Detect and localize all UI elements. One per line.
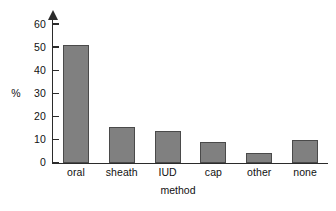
bar — [292, 140, 318, 163]
x-axis-title: method — [0, 185, 336, 196]
bar — [63, 45, 89, 163]
x-axis-title-text: method — [160, 184, 195, 196]
y-axis-tick-label: 60 — [24, 19, 46, 30]
y-axis-tick-label: 50 — [24, 42, 46, 53]
bar — [200, 142, 226, 163]
y-axis-tick-label: 20 — [24, 111, 46, 122]
bar — [109, 127, 135, 163]
x-axis-tick-label: none — [265, 167, 336, 178]
y-axis-tick-label: 40 — [24, 65, 46, 76]
y-axis-title: % — [9, 88, 23, 99]
x-axis-tick-labels: oralsheathIUDcapothernone — [53, 167, 328, 181]
bar — [155, 131, 181, 163]
y-axis-tick-label: 30 — [24, 88, 46, 99]
plot-area — [53, 0, 328, 163]
y-axis-tick-label: 10 — [24, 134, 46, 145]
bar-chart: 0102030405060 % oralsheathIUDcapothernon… — [0, 0, 336, 211]
y-axis-tick-labels: 0102030405060 — [22, 0, 46, 211]
bar — [246, 153, 272, 163]
